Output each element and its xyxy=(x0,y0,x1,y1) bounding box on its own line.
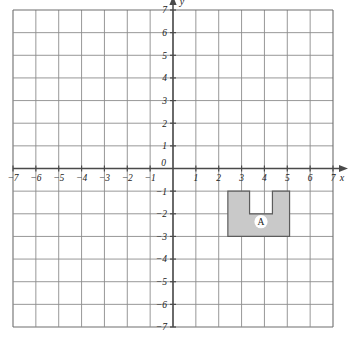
y-tick-label-3: 3 xyxy=(161,96,167,106)
x-tick-label--1: −1 xyxy=(145,173,156,183)
origin-label: 0 xyxy=(161,158,166,168)
y-tick-label--4: −4 xyxy=(156,254,167,264)
y-tick-label--6: −6 xyxy=(156,300,167,310)
x-tick-label-7: 7 xyxy=(331,173,337,183)
y-axis-label: y xyxy=(179,0,185,7)
axis-tick-labels: −7−6−5−4−3−2−112345671234567−1−2−3−4−5−6… xyxy=(7,0,344,332)
y-tick-label--1: −1 xyxy=(156,187,167,197)
y-tick-label-6: 6 xyxy=(162,28,167,38)
x-tick-label-3: 3 xyxy=(238,173,244,183)
x-tick-label--7: −7 xyxy=(7,173,19,183)
y-tick-label-5: 5 xyxy=(162,51,167,61)
y-tick-label-4: 4 xyxy=(162,73,167,83)
plotted-shapes: A xyxy=(228,191,290,236)
y-tick-label--5: −5 xyxy=(156,277,167,287)
x-tick-label-2: 2 xyxy=(216,173,221,183)
x-tick-label-1: 1 xyxy=(193,173,198,183)
y-tick-label-1: 1 xyxy=(162,141,167,151)
y-tick-label--2: −2 xyxy=(156,209,167,219)
x-tick-label--5: −5 xyxy=(53,173,64,183)
y-tick-label--3: −3 xyxy=(156,232,167,242)
x-tick-label--4: −4 xyxy=(76,173,87,183)
y-tick-label--7: −7 xyxy=(156,322,168,332)
shape-a xyxy=(228,191,290,236)
y-tick-label-2: 2 xyxy=(162,119,167,129)
shape-label-a: A xyxy=(258,217,265,227)
x-tick-label--2: −2 xyxy=(122,173,133,183)
x-tick-label--3: −3 xyxy=(99,173,110,183)
axes xyxy=(13,0,348,327)
x-tick-label-5: 5 xyxy=(285,173,290,183)
y-axis-arrowhead xyxy=(169,0,176,5)
coordinate-grid-svg: A −7−6−5−4−3−2−112345671234567−1−2−3−4−5… xyxy=(0,0,350,338)
x-axis-label: x xyxy=(339,172,345,183)
coordinate-plane-figure: A −7−6−5−4−3−2−112345671234567−1−2−3−4−5… xyxy=(0,0,350,338)
x-tick-label-4: 4 xyxy=(262,173,267,183)
x-tick-label--6: −6 xyxy=(30,173,41,183)
x-tick-label-6: 6 xyxy=(308,173,313,183)
